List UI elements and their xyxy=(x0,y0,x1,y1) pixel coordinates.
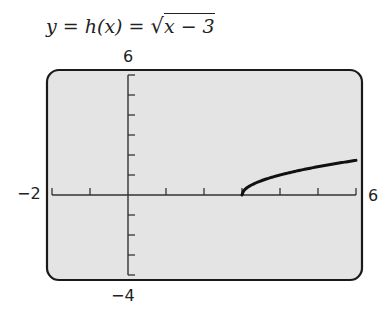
xmax-label: 6 xyxy=(368,186,378,205)
screen-frame xyxy=(47,70,362,280)
ymax-label: 6 xyxy=(123,47,133,66)
ymin-label: −4 xyxy=(111,286,135,305)
graph-window xyxy=(0,0,390,313)
xmin-label: −2 xyxy=(17,184,41,203)
